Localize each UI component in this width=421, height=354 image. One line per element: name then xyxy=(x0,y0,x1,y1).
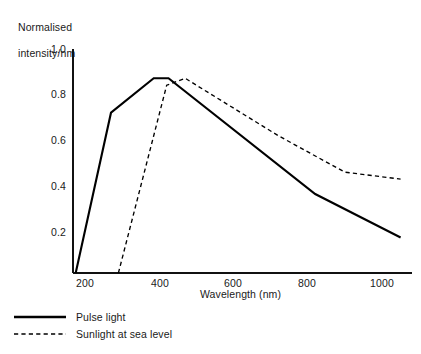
x-axis-title: Wavelength (nm) xyxy=(0,288,421,300)
legend-swatch-solid-line-icon xyxy=(14,312,66,322)
legend-label-pulse-light: Pulse light xyxy=(76,311,126,323)
legend-item-pulse-light: Pulse light xyxy=(14,308,314,325)
legend-item-sunlight-at-sea-level: Sunlight at sea level xyxy=(14,325,314,342)
series-line-sunlight-at-sea-level xyxy=(118,78,400,273)
plot-area xyxy=(0,0,421,300)
line-chart-figure: Normalised intensity/nm 1.0 0.8 0.6 0.4 … xyxy=(0,0,421,354)
chart-legend: Pulse light Sunlight at sea level xyxy=(14,308,314,342)
series-line-pulse-light xyxy=(76,78,401,273)
legend-swatch-dashed-line-icon xyxy=(14,329,66,339)
legend-label-sunlight-at-sea-level: Sunlight at sea level xyxy=(76,328,172,340)
